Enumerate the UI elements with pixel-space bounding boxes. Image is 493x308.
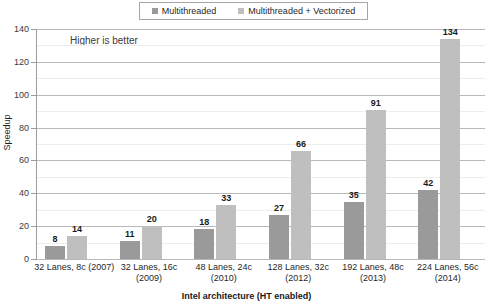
bar-multithreaded-vectorized[interactable]: 33: [216, 205, 236, 259]
bar-value-label: 35: [349, 191, 359, 200]
bar-multithreaded[interactable]: 42: [418, 190, 438, 259]
bar-group: 1120: [112, 29, 187, 259]
bar-value-label: 18: [199, 218, 209, 227]
x-axis-title: Intel architecture (HT enabled): [0, 291, 493, 301]
bar-value-label: 20: [147, 215, 157, 224]
bar-value-label: 8: [52, 235, 57, 244]
legend-label-multithreaded-vectorized: Multithreaded + Vectorized: [248, 7, 355, 16]
bar-value-label: 27: [274, 204, 284, 213]
bar-value-label: 33: [221, 194, 231, 203]
bar-multithreaded[interactable]: 8: [45, 246, 65, 259]
y-axis-tick-label: 20: [0, 222, 29, 231]
plot-area: Higher is better 81411201833276635914213…: [37, 29, 485, 259]
y-axis-tick-label: 40: [0, 189, 29, 198]
bar-multithreaded-vectorized[interactable]: 20: [142, 226, 162, 259]
bar-multithreaded[interactable]: 11: [120, 241, 140, 259]
legend-label-multithreaded: Multithreaded: [162, 7, 217, 16]
bar-value-label: 14: [72, 225, 82, 234]
bar-value-label: 134: [443, 28, 458, 37]
bar-value-label: 91: [371, 99, 381, 108]
bar-value-label: 11: [125, 230, 135, 239]
x-axis-tick-label-line: (2014): [402, 273, 493, 284]
legend-swatch-multithreaded-vectorized: [238, 8, 244, 14]
legend-item-multithreaded-vectorized[interactable]: Multithreaded + Vectorized: [238, 7, 355, 16]
bar-multithreaded[interactable]: 27: [269, 215, 289, 259]
x-axis-tick-label-line: 224 Lanes, 56c: [402, 262, 493, 273]
bar-group: 42134: [410, 29, 485, 259]
bar-chart: Multithreaded Multithreaded + Vectorized…: [0, 0, 493, 308]
gridline-major: [37, 259, 485, 260]
bar-multithreaded[interactable]: 35: [344, 202, 364, 260]
x-axis-labels: 32 Lanes, 8c (2007)32 Lanes, 16c(2009)48…: [37, 262, 485, 292]
y-axis-tick-label: 100: [0, 91, 29, 100]
bar-multithreaded-vectorized[interactable]: 91: [366, 110, 386, 260]
bar-group: 3591: [336, 29, 411, 259]
chart-legend: Multithreaded Multithreaded + Vectorized: [139, 2, 368, 20]
y-axis-tick-label: 0: [0, 255, 29, 264]
bar-group: 814: [37, 29, 112, 259]
bar-multithreaded[interactable]: 18: [194, 229, 214, 259]
bar-multithreaded-vectorized[interactable]: 134: [440, 39, 460, 259]
bar-multithreaded-vectorized[interactable]: 14: [67, 236, 87, 259]
bar-group: 2766: [261, 29, 336, 259]
bar-multithreaded-vectorized[interactable]: 66: [291, 151, 311, 259]
x-axis-tick-label: 224 Lanes, 56c(2014): [402, 262, 493, 284]
y-axis-tick-label: 140: [0, 25, 29, 34]
legend-item-multithreaded[interactable]: Multithreaded: [152, 7, 217, 16]
bar-value-label: 42: [423, 179, 433, 188]
bar-value-label: 66: [296, 140, 306, 149]
y-axis-title: Speedup: [3, 103, 12, 163]
bar-group: 1833: [186, 29, 261, 259]
legend-swatch-multithreaded: [152, 8, 158, 14]
y-axis-tick-label: 120: [0, 58, 29, 67]
